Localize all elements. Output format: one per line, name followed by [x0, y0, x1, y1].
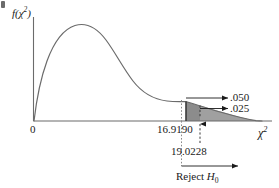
- x-axis-label: χ2: [258, 126, 267, 139]
- origin-tick-label: 0: [30, 124, 36, 135]
- reject-region-label: Reject H0: [176, 171, 219, 185]
- alpha-025-label: .025: [230, 103, 249, 114]
- critical-value-label: 16.9190: [157, 124, 193, 135]
- y-axis-label: f(χ2): [12, 6, 31, 19]
- density-curve: [34, 25, 262, 121]
- test-statistic-label: 19.0228: [171, 146, 207, 157]
- chi-square-figure: f(χ2) χ2 0 16.9190 19.0228 .050 .025 Rej…: [0, 0, 279, 188]
